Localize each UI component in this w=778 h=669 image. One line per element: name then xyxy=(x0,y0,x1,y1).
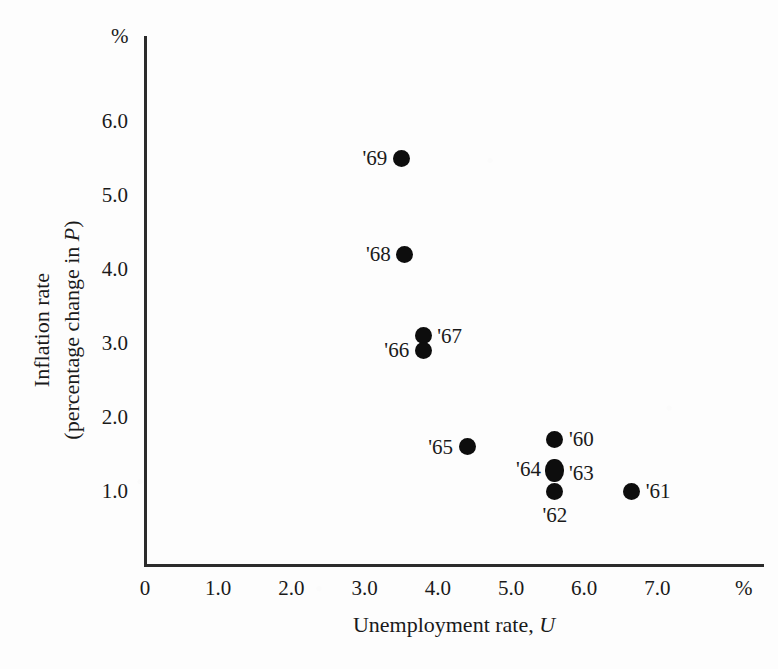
data-label-1965: '65 xyxy=(428,436,453,457)
x-tick-4.0: 4.0 xyxy=(425,578,451,599)
data-label-1967: '67 xyxy=(437,325,462,346)
phillips-curve-scatter-chart: % % 1.02.03.04.05.06.0 01.02.03.04.05.06… xyxy=(0,0,778,669)
data-label-1966: '66 xyxy=(384,340,409,361)
y-tick-3.0: 3.0 xyxy=(102,333,128,354)
data-label-1961: '61 xyxy=(646,481,671,502)
x-tick-2.0: 2.0 xyxy=(278,578,304,599)
x-tick-1.0: 1.0 xyxy=(205,578,231,599)
y-axis-title-line1: Inflation rate xyxy=(27,150,57,510)
y-axis-title: Inflation rate (percentage change in P) xyxy=(27,150,87,510)
x-tick-0: 0 xyxy=(140,578,151,599)
x-axis-title-text: Unemployment rate, xyxy=(353,612,539,637)
data-point-1964 xyxy=(545,459,564,482)
x-tick-3.0: 3.0 xyxy=(351,578,377,599)
data-label-1968: '68 xyxy=(366,244,391,265)
data-point-1969 xyxy=(393,150,410,167)
data-label-1964: '64 xyxy=(516,458,541,479)
y-tick-2.0: 2.0 xyxy=(102,407,128,428)
y-axis-title-line2: (percentage change in P) xyxy=(57,150,87,510)
y-axis-unit-label: % xyxy=(111,26,129,47)
y-tick-4.0: 4.0 xyxy=(102,259,128,280)
data-point-1968 xyxy=(396,246,413,263)
y-axis-line xyxy=(144,36,147,567)
y-axis-title-symbol: P xyxy=(59,228,84,241)
data-point-1965 xyxy=(459,438,476,455)
data-point-1960 xyxy=(546,431,563,448)
y-axis-title-line2-prefix: (percentage change in xyxy=(59,241,84,440)
x-axis-unit-label: % xyxy=(735,578,753,599)
data-point-1961 xyxy=(623,483,640,500)
data-label-1960: '60 xyxy=(569,429,594,450)
data-label-1963: '63 xyxy=(569,462,594,483)
data-label-1962: '62 xyxy=(543,505,568,526)
x-tick-7.0: 7.0 xyxy=(644,578,670,599)
data-point-1966 xyxy=(415,342,432,359)
x-axis-line xyxy=(144,564,764,567)
y-axis-title-line2-suffix: ) xyxy=(59,220,84,227)
x-tick-5.0: 5.0 xyxy=(498,578,524,599)
y-tick-6.0: 6.0 xyxy=(102,111,128,132)
x-axis-title: Unemployment rate, U xyxy=(144,612,764,638)
y-tick-1.0: 1.0 xyxy=(102,481,128,502)
data-point-1962 xyxy=(546,483,563,500)
data-label-1969: '69 xyxy=(362,148,387,169)
y-tick-5.0: 5.0 xyxy=(102,185,128,206)
x-axis-title-symbol: U xyxy=(539,612,555,637)
x-tick-6.0: 6.0 xyxy=(571,578,597,599)
